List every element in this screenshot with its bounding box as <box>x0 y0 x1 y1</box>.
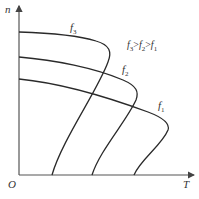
x-axis-label: T <box>183 179 189 190</box>
origin-label: O <box>8 179 16 190</box>
curve-f2 <box>19 57 137 175</box>
curve-label-f1: f1 <box>158 100 165 114</box>
y-axis-label: n <box>5 4 11 15</box>
mechanical-characteristic-diagram: n T O f3 f2 f1 f3>f2>f1 <box>0 0 199 199</box>
curve-label-f3: f3 <box>70 22 77 36</box>
diagram-canvas <box>0 0 199 199</box>
curve-f3 <box>19 32 110 175</box>
curve-f1 <box>19 79 168 175</box>
curve-label-f2: f2 <box>122 64 129 78</box>
frequency-relation-annotation: f3>f2>f1 <box>127 40 157 53</box>
